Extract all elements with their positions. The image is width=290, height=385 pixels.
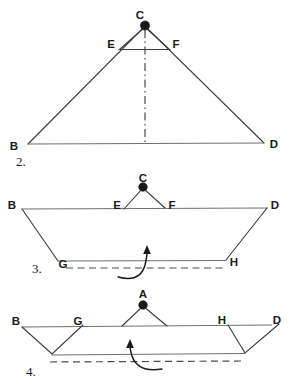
vertex-label-b: B xyxy=(10,140,18,152)
arrow-head xyxy=(126,339,134,348)
fold-up-arrow xyxy=(118,245,151,279)
vertex-label-b: B xyxy=(8,199,16,211)
top-edge-bd xyxy=(22,208,267,209)
arrow-curve xyxy=(130,346,162,370)
step-number-4: 4. xyxy=(26,364,36,379)
figure-step-4: A B G H D 4. xyxy=(12,288,281,379)
left-slant-bg xyxy=(22,209,58,261)
vertex-label-c: C xyxy=(139,172,147,184)
arrow-curve xyxy=(118,252,147,279)
vertex-label-c: C xyxy=(136,9,144,21)
figure-step-2: C E F B D 2. xyxy=(10,9,278,169)
apex-dot-a xyxy=(139,301,148,310)
triangle-base-bd xyxy=(28,143,264,144)
step-number-3: 3. xyxy=(32,261,42,276)
figure-step-3: C E F B D G H 3. xyxy=(8,172,279,279)
vertex-label-d: D xyxy=(271,199,279,211)
vertex-label-g: G xyxy=(74,315,83,327)
right-flap-v xyxy=(228,324,279,353)
vertex-label-e: E xyxy=(107,38,115,50)
bottom-edge-gh xyxy=(58,261,226,262)
vertex-label-h: H xyxy=(218,314,226,326)
fold-dash-line xyxy=(50,361,245,362)
arrow-head xyxy=(143,245,151,254)
vertex-label-h: H xyxy=(230,256,238,268)
paper-folding-instruction-sheet: C E F B D 2. C xyxy=(0,0,290,385)
base-edge xyxy=(52,354,245,356)
vertex-label-d: D xyxy=(273,314,281,326)
vertex-label-b: B xyxy=(12,315,20,327)
vertex-label-a: A xyxy=(139,288,147,300)
vertex-label-f: F xyxy=(172,38,179,50)
top-edge-bd xyxy=(22,325,272,327)
right-slant-dh xyxy=(226,208,267,260)
origami-steps-diagram: C E F B D 2. C xyxy=(0,0,290,385)
vertex-label-e: E xyxy=(113,199,121,211)
vertex-label-f: F xyxy=(168,199,175,211)
vertex-label-d: D xyxy=(270,138,278,150)
triangle-sides-bcd xyxy=(28,26,264,144)
left-flap-v xyxy=(22,325,83,354)
vertex-label-g: G xyxy=(59,258,68,270)
step-number-2: 2. xyxy=(16,154,26,169)
apex-dot-c xyxy=(140,21,149,30)
